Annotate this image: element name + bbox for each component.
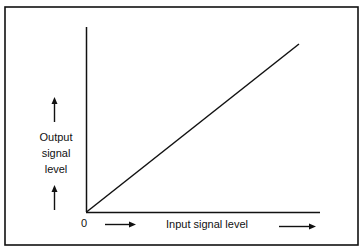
diagram-canvas	[0, 0, 362, 251]
y-axis-label-line: signal	[28, 147, 84, 160]
up-arrow-icon	[52, 185, 58, 210]
right-arrow-icon	[279, 224, 316, 230]
y-axis-label-line: level	[28, 163, 84, 176]
y-axis-label: Output signal level	[28, 131, 84, 179]
linear-response-line	[87, 44, 300, 212]
up-arrow-icon	[52, 97, 58, 122]
right-arrow-icon	[105, 222, 136, 228]
origin-label: 0	[81, 217, 87, 230]
x-axis-label: Input signal level	[166, 218, 248, 231]
y-axis-label-line: Output	[28, 131, 84, 144]
outer-frame	[5, 7, 358, 245]
